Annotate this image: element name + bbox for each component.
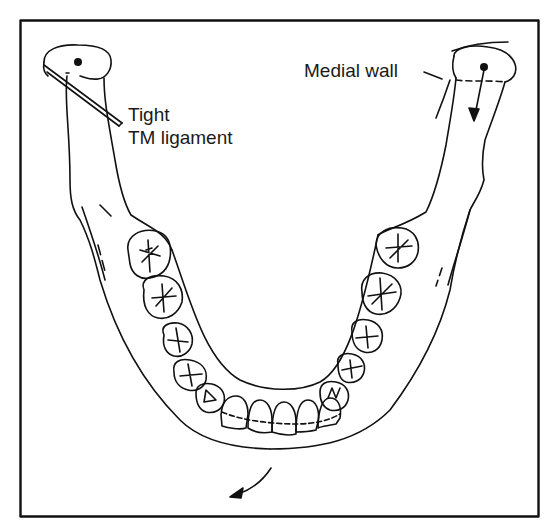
right-ramus-outline [378,78,456,235]
incisors [221,396,341,435]
arrow-down-left-icon [230,488,243,498]
medial-wall-leader [424,72,442,79]
diagram-figure: Tight TM ligament Medial wall [0,0,553,528]
label-tm-ligament: TM ligament [128,127,233,149]
left-condyle-dot-icon [74,58,82,66]
tm-ligament-icon [44,65,122,126]
left-molars [128,230,225,412]
left-condyle [44,45,111,79]
mandible-illustration [0,0,553,528]
medial-wall-line [436,80,450,118]
figure-frame [21,21,539,517]
right-condyle [452,42,516,121]
label-tight: Tight [128,104,170,126]
right-molars [320,228,418,411]
label-medial-wall: Medial wall [304,60,398,82]
arrow-down-icon [469,108,479,121]
chin-arrow [230,468,271,498]
